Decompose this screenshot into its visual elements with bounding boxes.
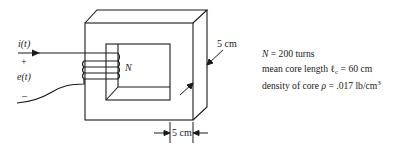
depth-dimension-label: 5 cm	[217, 38, 237, 49]
current-label: i(t)	[18, 38, 30, 49]
core-right-face	[193, 10, 207, 120]
spec-density: density of core ρ = .017 lb/cm3	[262, 76, 381, 93]
current-arrow-icon	[32, 50, 40, 57]
minus-label: –	[22, 90, 27, 101]
voltage-label: e(t)	[17, 71, 31, 82]
width-arrow-left-icon	[164, 131, 170, 136]
plus-label: +	[21, 56, 27, 67]
width-arrow-right-icon	[193, 131, 199, 136]
return-wire	[17, 79, 84, 103]
core-top-face	[85, 10, 207, 23]
turns-label: N	[125, 62, 132, 73]
coil-winding	[17, 53, 120, 103]
spec-turns: N = 200 turns	[262, 46, 315, 61]
core-front-face	[85, 23, 193, 120]
width-dimension-label: 5 cm	[172, 127, 192, 138]
